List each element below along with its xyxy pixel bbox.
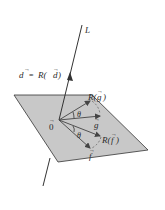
- svg-text:→: →: [49, 117, 55, 123]
- svg-text:→: →: [94, 116, 100, 122]
- Rg-label: R( g → ): [87, 88, 106, 102]
- svg-text:R(: R(: [87, 92, 97, 102]
- theta-lower-label: θ: [77, 131, 81, 140]
- d-label: d → = R( d → ): [19, 66, 61, 80]
- d-arrow-icon: [67, 72, 73, 81]
- svg-text:→: →: [89, 147, 95, 153]
- rotation-diagram: L d → = R( d → ) R( g → ) g → R( f → ) f…: [0, 0, 165, 210]
- line-label: L: [84, 25, 90, 35]
- svg-text:0: 0: [49, 122, 54, 132]
- svg-text:=: =: [29, 71, 34, 80]
- svg-text:): ): [115, 135, 119, 145]
- svg-text:R(: R(: [101, 135, 111, 145]
- svg-text:R(: R(: [37, 70, 47, 80]
- svg-text:): ): [57, 70, 61, 80]
- theta-upper-label: θ: [77, 110, 81, 119]
- svg-text:): ): [102, 92, 106, 102]
- axis-line-lower: [43, 158, 50, 186]
